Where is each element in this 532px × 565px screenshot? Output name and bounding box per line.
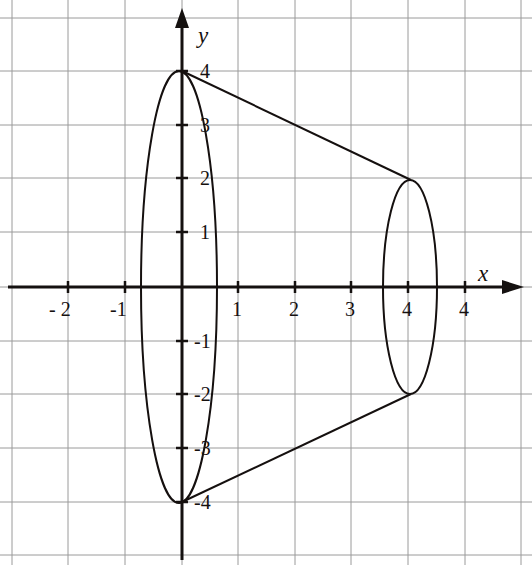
- y-tick-label: -1: [194, 331, 211, 351]
- x-tick-label: 4: [402, 299, 412, 319]
- y-tick-label: -3: [194, 438, 211, 458]
- axis-lines: [8, 8, 524, 560]
- y-tick-label: 2: [200, 168, 210, 188]
- y-tick-label: 4: [200, 61, 210, 81]
- coordinate-plot: [0, 0, 532, 565]
- y-tick-label: -4: [194, 492, 211, 512]
- x-tick-label: 4: [459, 299, 469, 319]
- x-tick-label: - 2: [49, 299, 71, 319]
- x-tick-label: 3: [345, 299, 355, 319]
- y-tick-label: 3: [200, 115, 210, 135]
- y-tick-label: 1: [200, 222, 210, 242]
- graph-figure: x y - 2-1123444321-1-2-3-4: [0, 0, 532, 565]
- x-axis-label: x: [478, 262, 488, 285]
- y-axis-label: y: [198, 24, 208, 47]
- grid-lines: [0, 0, 532, 565]
- x-tick-label: -1: [110, 299, 127, 319]
- x-tick-label: 2: [289, 299, 299, 319]
- x-tick-label: 1: [232, 299, 242, 319]
- y-tick-label: -2: [194, 384, 211, 404]
